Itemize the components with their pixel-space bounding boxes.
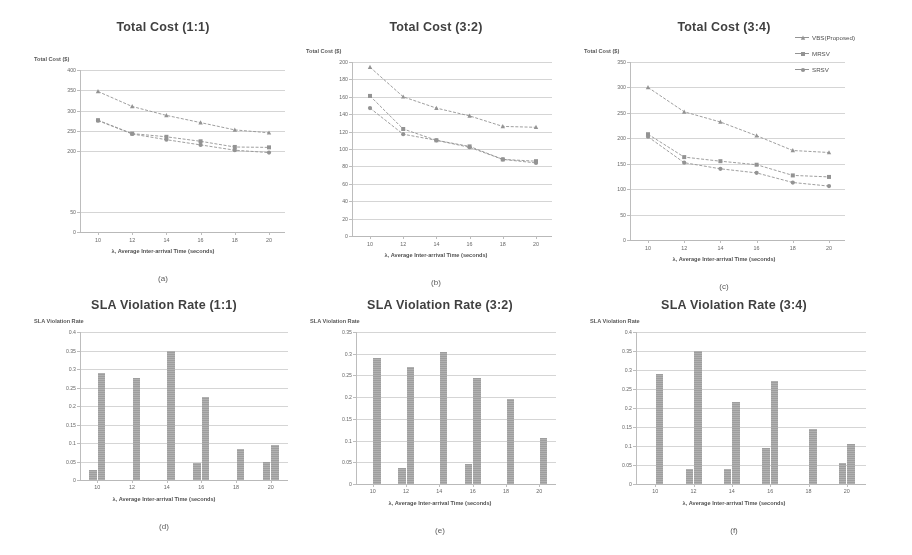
chart-panel-e: SLA Violation Rate (3:2)SLA Violation Ra… (300, 296, 580, 544)
x-tick-label: 10 (95, 237, 101, 243)
x-tick-label: 16 (198, 237, 204, 243)
gridline (356, 332, 556, 333)
y-tick-label: 0 (318, 233, 348, 239)
gridline (80, 406, 288, 407)
gridline (80, 332, 288, 333)
x-tick-label: 20 (844, 488, 850, 494)
x-tick-label: 12 (681, 245, 687, 251)
x-tick-mark (97, 480, 98, 483)
gridline (356, 375, 556, 376)
gridline (636, 484, 866, 485)
y-tick-mark (633, 484, 636, 485)
x-tick-mark (166, 232, 167, 235)
y-tick-label: 140 (318, 111, 348, 117)
x-tick-mark (439, 484, 440, 487)
y-tick-label: 0.15 (46, 422, 76, 428)
bar (686, 469, 694, 484)
legend-marker-triangle-icon (795, 34, 809, 41)
x-axis-title-a: λ, Average Inter-arrival Time (seconds) (28, 248, 298, 254)
gridline (636, 446, 866, 447)
x-tick-mark (436, 236, 437, 239)
x-tick-mark (236, 480, 237, 483)
x-tick-label: 12 (129, 484, 135, 490)
x-tick-mark (847, 484, 848, 487)
bar (762, 448, 770, 484)
y-tick-mark (349, 236, 352, 237)
x-tick-mark (370, 236, 371, 239)
x-tick-label: 10 (370, 488, 376, 494)
y-tick-mark (77, 232, 80, 233)
bar (507, 399, 515, 484)
x-tick-mark (406, 484, 407, 487)
gridline (356, 484, 556, 485)
x-tick-mark (793, 240, 794, 243)
x-axis-title-d: λ, Average Inter-arrival Time (seconds) (28, 496, 300, 502)
y-tick-label: 100 (596, 186, 626, 192)
x-tick-mark (403, 236, 404, 239)
y-tick-label: 0.2 (602, 405, 632, 411)
chart-title-c: Total Cost (3:4) (574, 20, 874, 34)
subfigure-caption-a: (a) (28, 274, 298, 283)
x-tick-label: 20 (826, 245, 832, 251)
gridline (636, 427, 866, 428)
y-tick-label: 0 (596, 237, 626, 243)
subfigure-caption-b: (b) (300, 278, 572, 287)
y-tick-label: 300 (46, 108, 76, 114)
chart-title-a: Total Cost (1:1) (28, 20, 298, 34)
x-tick-label: 10 (94, 484, 100, 490)
x-tick-mark (684, 240, 685, 243)
y-tick-label: 400 (46, 67, 76, 73)
y-axis-spine (636, 332, 637, 484)
bar (133, 378, 141, 480)
x-tick-mark (655, 484, 656, 487)
x-tick-mark (503, 236, 504, 239)
x-tick-label: 20 (266, 237, 272, 243)
x-tick-mark (720, 240, 721, 243)
line-series-group (80, 70, 285, 232)
bar (193, 463, 201, 480)
x-tick-mark (770, 484, 771, 487)
y-tick-label: 0 (46, 477, 76, 483)
y-tick-label: 200 (318, 59, 348, 65)
gridline (356, 441, 556, 442)
gridline (80, 425, 288, 426)
y-tick-label: 120 (318, 129, 348, 135)
subfigure-caption-f: (f) (578, 526, 890, 535)
y-tick-label: 0.35 (322, 329, 352, 335)
x-tick-label: 20 (268, 484, 274, 490)
bar (237, 449, 245, 480)
x-tick-label: 18 (790, 245, 796, 251)
x-tick-mark (732, 484, 733, 487)
y-tick-label: 0.25 (46, 385, 76, 391)
x-tick-label: 10 (652, 488, 658, 494)
x-tick-label: 20 (536, 488, 542, 494)
y-axis-title-f: SLA Violation Rate (590, 318, 640, 324)
bar (839, 463, 847, 484)
bar (847, 444, 855, 484)
subfigure-caption-c: (c) (574, 282, 874, 291)
bar (89, 470, 97, 480)
bar (98, 373, 106, 480)
bar (656, 374, 664, 484)
x-axis-title-f: λ, Average Inter-arrival Time (seconds) (578, 500, 890, 506)
x-tick-mark (757, 240, 758, 243)
y-tick-label: 180 (318, 76, 348, 82)
y-tick-label: 0.2 (46, 403, 76, 409)
x-tick-label: 12 (400, 241, 406, 247)
x-tick-label: 18 (806, 488, 812, 494)
gridline (80, 462, 288, 463)
y-tick-label: 0.35 (46, 348, 76, 354)
x-tick-label: 12 (129, 237, 135, 243)
chart-title-e: SLA Violation Rate (3:2) (300, 298, 580, 312)
x-tick-label: 20 (533, 241, 539, 247)
gridline (356, 354, 556, 355)
x-tick-mark (648, 240, 649, 243)
y-tick-label: 60 (318, 181, 348, 187)
x-axis-title-c: λ, Average Inter-arrival Time (seconds) (574, 256, 874, 262)
x-tick-label: 14 (433, 241, 439, 247)
x-tick-mark (473, 484, 474, 487)
gridline (80, 480, 288, 481)
y-tick-mark (627, 240, 630, 241)
y-tick-label: 0.1 (602, 443, 632, 449)
gridline (636, 332, 866, 333)
